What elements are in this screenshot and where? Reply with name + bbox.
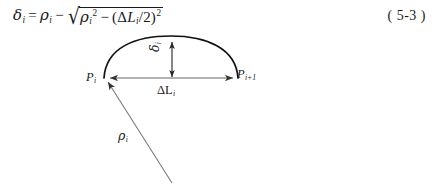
chord-delta-symbol: ΔL [157,83,173,97]
point-pi-subscript: i [94,76,96,85]
arc-geometry-diagram [0,0,440,189]
point-pi-base: P [86,70,94,84]
radius-subscript: i [126,135,128,144]
label-point-pi: Pi [86,71,96,85]
sagitta-subscript: i [154,42,163,44]
label-radius: ρi [118,130,128,144]
point-pi1-base: P [237,67,245,81]
radius-rho-symbol: ρ [118,128,125,143]
label-point-pi-plus-1: Pi+1 [237,68,256,82]
arc-curve [104,36,238,78]
chord-subscript: i [173,89,175,98]
sagitta-delta-symbol: δ [147,44,162,52]
label-chord-length: ΔLi [157,84,175,98]
point-pi1-subscript: i+1 [245,73,256,82]
figure-page: δi=ρi−√ρi2−(ΔLi/2)2 ( 5-3 ) [0,0,440,189]
label-sagitta: δi [149,42,163,52]
